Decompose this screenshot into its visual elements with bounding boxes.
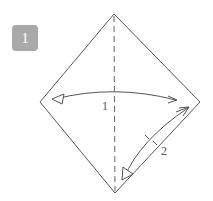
arrowhead-lower-icon (122, 167, 133, 180)
fold-label-1: 1 (102, 99, 108, 113)
dashed-crease-line (114, 16, 115, 191)
fold-arrow-2 (122, 107, 189, 180)
edge-tick-2 (153, 141, 157, 145)
paper-outline (40, 14, 200, 193)
fold-diagram: 1 2 (0, 0, 213, 201)
edge-tick-1 (145, 135, 149, 139)
fold-label-2: 2 (161, 144, 167, 158)
arrowhead-left-icon (52, 94, 64, 104)
